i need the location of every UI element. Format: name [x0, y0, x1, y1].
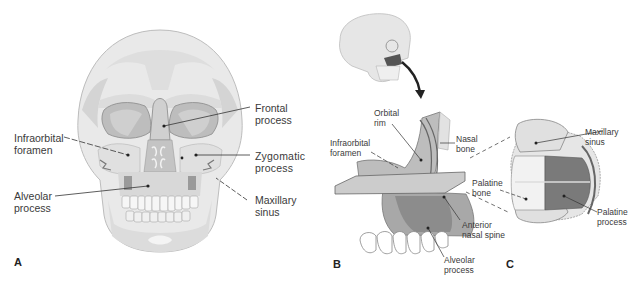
label-a-maxillary-sinus: Maxillary sinus	[255, 194, 296, 218]
panel-letter-b: B	[333, 258, 341, 270]
label-b-alveolar-process: Alveolar process	[444, 255, 475, 275]
label-c-palatine-bone: Palatine bone	[472, 178, 503, 198]
panel-letter-c: C	[506, 258, 514, 270]
panel-b-locator-skull	[340, 14, 426, 99]
label-c-palatine-process: Palatine process	[597, 207, 628, 227]
maxillary-sinus-region	[515, 119, 568, 152]
label-b-anterior-nasal-spine: Anterior nasal spine	[462, 220, 505, 240]
label-a-infraorbital-foramen: Infraorbital foramen	[14, 132, 64, 156]
label-b-nasal-bone: Nasal bone	[456, 134, 478, 154]
nasal-cavity	[144, 140, 176, 172]
pointer-arrow	[402, 62, 420, 92]
label-a-frontal-process: Frontal process	[255, 102, 292, 126]
palatine-bone-region	[511, 156, 545, 210]
label-b-orbital-rim: Orbital rim	[374, 108, 399, 128]
label-c-maxillary-sinus: Maxillary sinus	[585, 127, 619, 147]
panel-letter-a: A	[14, 256, 22, 268]
label-a-alveolar-process: Alveolar process	[14, 190, 52, 214]
palatine-process-region	[545, 156, 590, 210]
lower-teeth	[126, 211, 190, 222]
anatomy-figure	[0, 0, 643, 286]
label-b-infraorbital-foramen: Infraorbital foramen	[330, 138, 370, 158]
upper-teeth	[122, 196, 198, 211]
nasal-bridge	[150, 99, 170, 141]
panel-a-skull	[55, 30, 250, 252]
label-a-zygomatic-process: Zygomatic process	[255, 150, 305, 174]
section-plane	[335, 172, 465, 194]
